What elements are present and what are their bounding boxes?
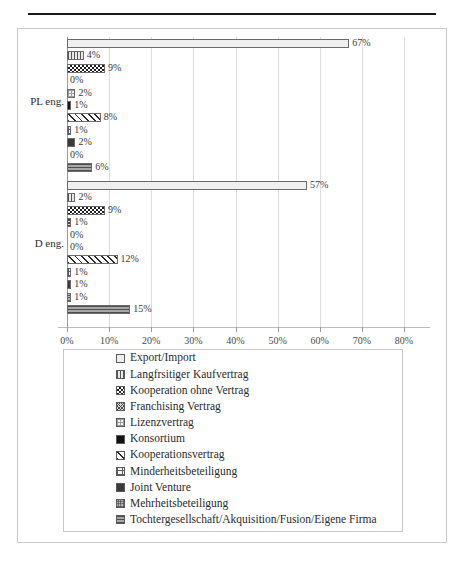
bar	[67, 51, 84, 60]
legend-swatch-icon	[116, 451, 125, 460]
chart-figure: 0%10%20%30%40%50%60%70%80% PL eng.D eng.…	[17, 28, 447, 543]
category-label-deng: D eng.	[18, 237, 64, 249]
bar	[67, 126, 71, 135]
bar-value-label: 1%	[74, 266, 87, 277]
x-tick-label: 50%	[268, 335, 286, 346]
bar-value-label: 9%	[108, 62, 121, 73]
legend-swatch-icon	[116, 499, 125, 508]
bar-value-label: 2%	[78, 136, 91, 147]
plot-area: 0%10%20%30%40%50%60%70%80% PL eng.D eng.…	[18, 29, 448, 329]
bar-value-label: 15%	[133, 303, 151, 314]
bar	[67, 218, 71, 227]
legend-item[interactable]: Export/Import	[64, 350, 402, 366]
axis-tick	[151, 327, 152, 332]
x-tick-label: 20%	[142, 335, 160, 346]
legend-item[interactable]: Konsortium	[64, 431, 402, 447]
legend-label: Kooperationsvertrag	[130, 449, 225, 461]
bar	[67, 268, 71, 277]
legend-swatch-icon	[116, 386, 125, 395]
legend-label: Joint Venture	[130, 482, 191, 494]
legend-item[interactable]: Joint Venture	[64, 480, 402, 496]
gridline	[362, 37, 363, 327]
bar-value-label: 1%	[74, 124, 87, 135]
legend-item[interactable]: Franchising Vertrag	[64, 399, 402, 415]
axis-tick	[404, 327, 405, 332]
bar-value-label: 1%	[74, 99, 87, 110]
legend-item[interactable]: Mehrheitsbeteiligung	[64, 496, 402, 512]
x-tick-label: 70%	[353, 335, 371, 346]
x-tick-label: 30%	[184, 335, 202, 346]
bar-value-label: 1%	[74, 278, 87, 289]
x-tick-label: 60%	[311, 335, 329, 346]
bar	[67, 39, 349, 48]
legend-swatch-icon	[116, 435, 125, 444]
bar-value-label: 6%	[95, 161, 108, 172]
bar-value-label: 9%	[108, 204, 121, 215]
legend-swatch-icon	[116, 402, 125, 411]
legend-label: Minderheitsbeteiligung	[130, 466, 237, 478]
bar-value-label: 0%	[70, 149, 83, 160]
axis-tick	[320, 327, 321, 332]
chart-legend: Export/ImportLangfrsitiger KaufvertragKo…	[63, 349, 403, 532]
bar	[67, 206, 105, 215]
bar-value-label: 1%	[74, 291, 87, 302]
x-tick-label: 0%	[60, 335, 73, 346]
axis-tick	[278, 327, 279, 332]
legend-label: Konsortium	[130, 433, 185, 445]
bar	[67, 101, 71, 110]
axis-tick	[362, 327, 363, 332]
page-top-faint-text	[120, 0, 350, 9]
gridline	[404, 37, 405, 327]
legend-item[interactable]: Langfrsitiger Kaufvertrag	[64, 366, 402, 382]
legend-swatch-icon	[116, 483, 125, 492]
legend-label: Mehrheitsbeteiligung	[130, 498, 228, 510]
legend-label: Kooperation ohne Vertrag	[130, 385, 249, 397]
bar	[67, 255, 118, 264]
bar-value-label: 67%	[352, 37, 370, 48]
legend-label: Franchising Vertrag	[130, 401, 221, 413]
bar-value-label: 57%	[310, 179, 328, 190]
legend-item[interactable]: Kooperationsvertrag	[64, 447, 402, 463]
bar	[67, 193, 75, 202]
legend-swatch-icon	[116, 515, 125, 524]
bar-value-label: 8%	[104, 111, 117, 122]
legend-label: Langfrsitiger Kaufvertrag	[130, 369, 248, 381]
bar-value-label: 12%	[121, 253, 139, 264]
bar-value-label: 2%	[78, 191, 91, 202]
legend-label: Tochtergesellschaft/Akquisition/Fusion/E…	[130, 514, 377, 526]
legend-swatch-icon	[116, 418, 125, 427]
bar	[67, 293, 71, 302]
bar-value-label: 1%	[74, 216, 87, 227]
x-tick-label: 80%	[395, 335, 413, 346]
category-axis-line	[58, 327, 430, 328]
bar	[67, 181, 307, 190]
bar	[67, 305, 130, 314]
category-label-pleng: PL eng.	[18, 95, 64, 107]
legend-swatch-icon	[116, 370, 125, 379]
legend-item[interactable]: Kooperation ohne Vertrag	[64, 382, 402, 398]
axis-tick	[109, 327, 110, 332]
bar	[67, 113, 101, 122]
bar-value-label: 0%	[70, 229, 83, 240]
bar	[67, 163, 92, 172]
bar	[67, 138, 75, 147]
bar-value-label: 0%	[70, 241, 83, 252]
axis-tick	[193, 327, 194, 332]
axis-tick	[236, 327, 237, 332]
bar	[67, 64, 105, 73]
x-tick-label: 40%	[226, 335, 244, 346]
bar-value-label: 4%	[87, 49, 100, 60]
bar	[67, 280, 71, 289]
header-rule	[28, 13, 436, 15]
x-tick-label: 10%	[100, 335, 118, 346]
legend-swatch-icon	[116, 354, 125, 363]
legend-label: Export/Import	[130, 352, 196, 364]
bar	[67, 89, 75, 98]
legend-item[interactable]: Minderheitsbeteiligung	[64, 463, 402, 479]
axis-tick	[67, 327, 68, 332]
legend-label: Lizenzvertrag	[130, 417, 194, 429]
legend-item[interactable]: Lizenzvertrag	[64, 415, 402, 431]
legend-swatch-icon	[116, 467, 125, 476]
legend-item[interactable]: Tochtergesellschaft/Akquisition/Fusion/E…	[64, 512, 402, 528]
bar-value-label: 0%	[70, 74, 83, 85]
